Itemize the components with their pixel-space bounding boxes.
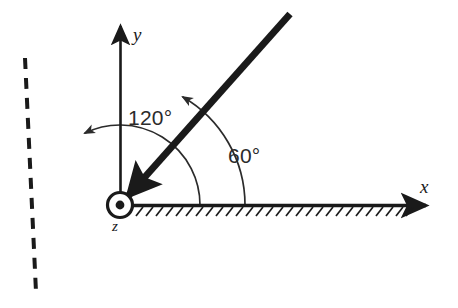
- figure-container: y x z 120° 60°: [0, 0, 458, 308]
- x-axis-label: x: [420, 177, 428, 196]
- ground-hatching: [126, 207, 413, 216]
- dashed-line-stroke: [25, 58, 36, 292]
- angle-60-label: 60°: [228, 145, 260, 166]
- dashed-reference-line: [25, 58, 36, 292]
- z-axis-symbol: [108, 193, 133, 218]
- thick-bar-line: [128, 14, 290, 196]
- thick-bar: [128, 14, 290, 196]
- z-symbol-dot: [116, 201, 125, 210]
- z-axis-label: z: [112, 219, 118, 234]
- angle-120-label: 120°: [128, 107, 172, 128]
- y-axis-label: y: [133, 25, 141, 44]
- x-axis: [120, 206, 426, 217]
